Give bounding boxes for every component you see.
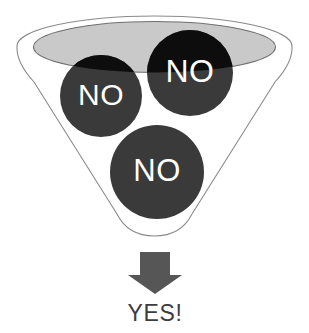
ball-bottom-label: NO — [133, 153, 181, 188]
ball-left: NO — [60, 55, 142, 137]
funnel-diagram: NO NO NO YES! — [0, 0, 309, 333]
ball-bottom: NO — [110, 125, 204, 219]
funnel-illustration: NO NO NO YES! — [0, 0, 309, 333]
ball-right-label: NO — [166, 53, 215, 89]
ball-right: NO — [147, 30, 233, 116]
down-arrow-icon — [128, 252, 182, 294]
ball-left-label: NO — [78, 78, 124, 111]
outcome-label: YES! — [128, 300, 183, 326]
down-arrow-shape — [128, 252, 182, 294]
